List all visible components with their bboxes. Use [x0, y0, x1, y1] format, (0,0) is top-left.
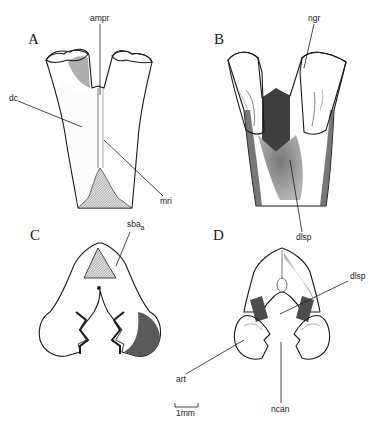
scale-bar: 1mm	[175, 403, 198, 418]
scale-bar-label: 1mm	[176, 408, 195, 418]
label-art: art	[176, 374, 187, 384]
panel-d: D	[213, 227, 330, 359]
panel-c: C	[30, 227, 161, 356]
panel-b: B	[214, 31, 346, 206]
label-dlsp-b: dlsp	[296, 232, 312, 242]
panel-a: A	[28, 31, 152, 208]
label-ampr: ampr	[90, 13, 110, 23]
panel-letter-c: C	[30, 227, 40, 243]
panel-letter-d: D	[213, 227, 224, 243]
label-ncan: ncan	[271, 404, 290, 414]
articular-facet-left	[234, 316, 270, 360]
label-ngr: ngr	[308, 13, 320, 23]
label-sba: sbaa	[127, 219, 145, 231]
vertebra-figure: A ampr dc mri B	[0, 0, 375, 433]
panel-letter-a: A	[28, 31, 39, 47]
label-mri: mri	[160, 196, 172, 206]
label-dlsp-d: dlsp	[350, 271, 366, 281]
label-dc: dc	[9, 93, 19, 103]
panel-letter-b: B	[214, 31, 224, 47]
articular-facet-right	[294, 316, 330, 360]
